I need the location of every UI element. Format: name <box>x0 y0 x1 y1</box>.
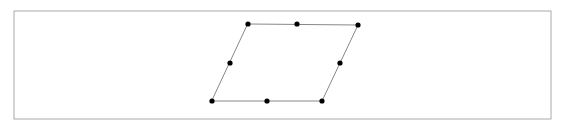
parallelogram-figure <box>0 0 566 131</box>
midpoint-dot-top-edge <box>294 21 299 26</box>
vertex-dot-bottom-right <box>319 98 324 103</box>
midpoint-dot-bottom-edge <box>264 98 269 103</box>
midpoint-dot-right-edge <box>337 60 342 65</box>
vertex-dot-top-left <box>245 21 250 26</box>
vertex-dot-bottom-left <box>209 98 214 103</box>
midpoint-dot-left-edge <box>227 60 232 65</box>
figure-container <box>0 0 566 131</box>
vertex-dot-top-right <box>355 22 360 27</box>
figure-border-frame <box>14 11 551 119</box>
